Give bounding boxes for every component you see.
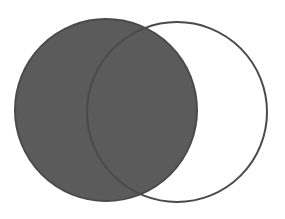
set-a-circle (15, 19, 197, 201)
venn-diagram (0, 0, 285, 219)
